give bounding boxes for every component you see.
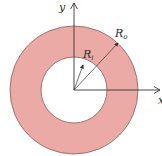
outer-radius-subscript: o xyxy=(123,33,127,41)
outer-radius-label: Ro xyxy=(114,27,128,41)
x-axis-label: x xyxy=(158,94,162,107)
y-axis-label: y xyxy=(58,1,66,14)
outer-radius-symbol: R xyxy=(114,27,123,40)
inner-radius-subscript: i xyxy=(91,54,93,62)
inner-radius-symbol: R xyxy=(82,48,91,61)
annulus-diagram: y x Ro Ri xyxy=(0,0,162,156)
inner-radius-arrow xyxy=(74,65,83,90)
